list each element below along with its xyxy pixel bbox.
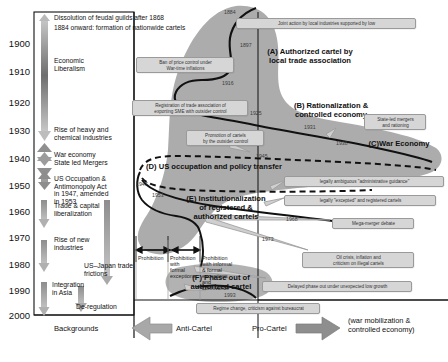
year-label-1960: 1960 [2,206,30,217]
prohibition-band-3: Prohibition with informal & formal excep… [202,255,236,291]
year-label-1910: 1910 [2,66,30,77]
background-deregulation: De-regulation [76,303,117,311]
curve-year-1897: 1897 [240,42,252,48]
anti-cartel-arrow [132,317,172,340]
axis-label-anti-cartel: Anti-Cartel [176,324,212,333]
callout-administrative-guidance: legally ambiguous "administrative guidan… [284,176,444,187]
curve-year-1925: 1925 [250,110,262,116]
background-integration-asia: Integration in Asia [52,281,84,296]
phase-d-label: (D) US occupation and policy transfer [146,163,376,172]
background-us-japan-frictions: US–Japan trade frictions [84,262,133,277]
curve-year-1931: 1931 [304,124,316,130]
callout-mega-merger-debate: Mega-merger debate [332,218,414,229]
phase-c-label: (C)War Economy [352,140,446,149]
callout-delayed-phase-out: Delayed phase out under unexpected low g… [262,281,412,292]
callout-regime-change: Regime change, criticism against bureauc… [196,303,320,314]
top-note-cartels: 1884 onward: formation of nationwide car… [54,24,185,31]
axis-label-backgrounds: Backgrounds [54,324,98,333]
prohibition-band-1: Prohibition [138,255,168,261]
curve-year-1945: 1945 [256,153,268,159]
curve-year-1916: 1916 [222,80,234,86]
callout-state-led-mergers: State-led mergers and rationing [364,114,426,130]
curve-year-1884: 1884 [224,9,236,15]
year-label-2000: 2000 [2,310,30,321]
callout-joint-action: Joint action by local industries support… [236,18,416,29]
prohibition-band-2: Prohibition with formal exceptions [170,255,200,279]
curve-year-1947: 1947 [136,181,148,187]
background-economic-liberalism: Economic Liberalism [54,57,85,72]
callout-registration-sme: Registration of trade association of exp… [132,100,248,116]
year-label-1900: 1900 [2,38,30,49]
axis-label-pro-cartel: Pro-Cartel [252,324,287,333]
background-war-economy: War economy State led Mergers [54,151,108,166]
curve-year-1938: 1938 [336,140,348,146]
top-note-guilds: Dissolution of feudal guilds after 1868 [54,14,164,21]
curve-year-1953: 1953 [152,192,164,198]
callout-excepted-registered: legally "excepted" and registered cartel… [284,195,436,206]
callout-promotion-cartels: Promotion of cartels by the outsider con… [186,130,264,146]
axis-corner-note: (war mobilization & controlled economy) [348,316,448,335]
phase-e-label: (E) Institutionalization of registered &… [174,195,278,222]
year-label-1930: 1930 [2,125,30,136]
callout-oil-crisis: Oil crisis, inflation and criticism on i… [302,252,414,268]
curve-year-1973: 1973 [262,236,274,242]
background-trade-liberalization: Trade & capital liberalization [54,202,99,217]
background-new-industries: Rise of new industries [54,236,90,251]
year-label-1990: 1990 [2,285,30,296]
year-label-1940: 1940 [2,153,30,164]
year-label-1950: 1950 [2,180,30,191]
year-label-1920: 1920 [2,97,30,108]
year-label-1970: 1970 [2,232,30,243]
curve-year-1968: 1968 [286,216,298,222]
background-heavy-chemical: Rise of heavy and chemical industries [54,126,112,141]
pro-cartel-arrow [296,317,340,340]
background-us-occupation: US Occupation & Antimonopoly Act in 1947… [54,175,108,205]
phase-a-label: (A) Authorized cartel by local trade ass… [240,48,380,66]
figure-canvas: 1900 1910 1920 1930 1940 1950 1960 1970 … [0,0,448,362]
curve-year-1993: 1993 [224,292,236,298]
year-label-1980: 1980 [2,259,30,270]
callout-ban-price-control: Ban of price control under War-time infl… [136,57,234,73]
